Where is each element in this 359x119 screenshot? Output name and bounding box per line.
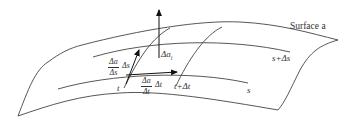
vector-ds-multiplier: Δs	[122, 62, 130, 70]
fraction-numerator: Δa	[108, 58, 119, 68]
fraction-numerator: Δa	[141, 77, 152, 87]
surface-diagram	[0, 0, 359, 119]
curve-label-t-plus-dt: t+Δt	[174, 82, 190, 91]
vector-dt-arrow	[126, 72, 177, 75]
normal-vector-label: Δai	[161, 50, 172, 61]
normal-label-text: Δa	[161, 49, 171, 59]
vector-dt-multiplier: Δt	[155, 81, 162, 89]
fraction-denominator: Δs	[109, 68, 117, 77]
curve-label-s: s	[247, 86, 251, 95]
curve-s-plus-ds	[93, 43, 290, 57]
surface-outline	[18, 22, 338, 116]
vector-ds-fraction: Δa Δs	[108, 58, 119, 77]
surface-label: Surface a	[290, 22, 326, 32]
curve-label-t: t	[117, 84, 120, 93]
normal-label-subscript: i	[171, 55, 173, 61]
vector-dt-fraction: Δa Δt	[141, 77, 152, 96]
fraction-denominator: Δt	[143, 87, 150, 96]
curve-label-s-plus-ds: s+Δs	[272, 54, 290, 63]
curve-s	[58, 75, 248, 89]
